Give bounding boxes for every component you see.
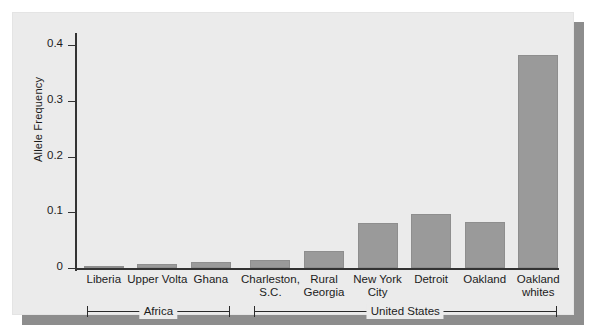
category-label-line: Oakland [500,273,576,286]
x-axis-line [75,268,559,270]
bar [191,262,231,268]
category-label-line: whites [500,286,576,299]
y-tick-label-0.4: 0.4 [47,37,63,49]
category-axis-labels: LiberiaUpper VoltaGhanaCharleston,S.C.Ru… [77,273,559,305]
bar [465,222,505,268]
bracket-cap-left [254,306,255,317]
bar [411,214,451,268]
group-label: United States [367,304,444,319]
bar [84,266,124,268]
y-tick-0.4: 0.4 [68,45,75,46]
category-label: Oaklandwhites [500,273,576,299]
group-brackets: AfricaUnited States [12,304,574,322]
y-tick-label-0.3: 0.3 [47,93,63,105]
category-label-line: City [340,286,416,299]
bar [304,251,344,268]
y-tick-0.3: 0.3 [68,101,75,102]
bracket-cap-right [556,306,557,317]
plot-area: 0.4 0.3 0.2 0.1 0 [75,45,557,268]
y-tick-0: 0 [68,268,75,269]
y-tick-label-0.2: 0.2 [47,149,63,161]
figure: Allele Frequency 0.4 0.3 0.2 0.1 0 Liber… [0,0,591,333]
y-axis-title: Allele Frequency [32,77,44,162]
chart-panel: Allele Frequency 0.4 0.3 0.2 0.1 0 Liber… [12,12,574,315]
y-tick-0.2: 0.2 [68,157,75,158]
y-tick-0.1: 0.1 [68,212,75,213]
group-label: Africa [140,304,177,319]
bar-series [77,45,559,268]
bar [250,260,290,268]
bar [137,264,177,268]
bar [358,223,398,268]
y-tick-label-0: 0 [57,260,63,272]
bar [518,55,558,268]
group-bracket-united-states: United States [254,304,557,320]
bracket-cap-right [229,306,230,317]
group-bracket-africa: Africa [87,304,230,320]
y-tick-label-0.1: 0.1 [47,204,63,216]
bracket-cap-left [87,306,88,317]
